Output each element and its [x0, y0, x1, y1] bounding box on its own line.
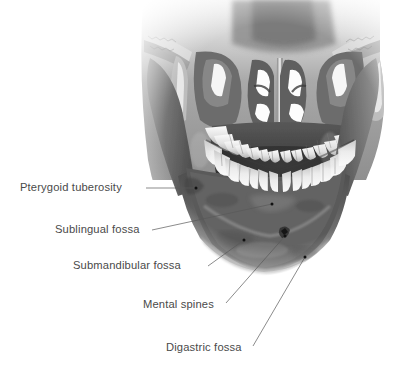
anatomy-figure-page: Pterygoid tuberosity Sublingual fossa Su…	[0, 0, 419, 371]
label-digastric-fossa: Digastric fossa	[166, 342, 242, 353]
label-pterygoid-tuberosity: Pterygoid tuberosity	[20, 182, 122, 193]
label-sublingual-fossa: Sublingual fossa	[55, 224, 140, 235]
label-submandibular-fossa: Submandibular fossa	[73, 260, 181, 271]
label-mental-spines: Mental spines	[143, 299, 214, 310]
